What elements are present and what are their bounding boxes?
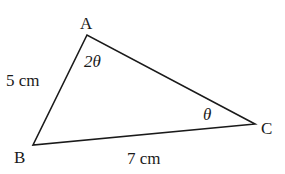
vertex-label-a: A [80, 14, 93, 33]
triangle-svg: A B C 5 cm 7 cm 2θ θ [0, 0, 285, 174]
triangle-abc [33, 35, 255, 145]
angle-label-c: θ [203, 105, 211, 124]
triangle-diagram: A B C 5 cm 7 cm 2θ θ [0, 0, 285, 174]
angle-label-a: 2θ [84, 52, 101, 71]
vertex-label-c: C [261, 119, 272, 138]
side-label-bc: 7 cm [127, 149, 161, 168]
vertex-label-b: B [14, 148, 25, 167]
side-label-ab: 5 cm [6, 71, 40, 90]
